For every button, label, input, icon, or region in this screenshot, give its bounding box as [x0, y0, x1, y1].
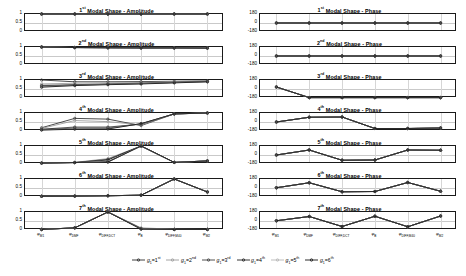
y-tick-label: 0 [233, 218, 257, 223]
legend-marker [132, 257, 145, 263]
y-tick-label: 0.5 [0, 185, 22, 190]
data-point-marker [275, 154, 277, 156]
legend-item: g1=4th [237, 256, 265, 265]
data-point-marker [206, 13, 208, 15]
data-point-marker [275, 121, 277, 123]
phase-axes [259, 178, 456, 196]
series-line [276, 117, 440, 129]
y-tick-label: 180 [233, 77, 257, 82]
series-layer [25, 113, 224, 131]
y-tick-label: 0.5 [0, 53, 22, 58]
x-tick-label: φM2 [203, 231, 210, 239]
series-line [42, 179, 208, 196]
x-axis-tick-labels: φM1φDMFφDIFF,DCTφBφDIFF,M40φM2 [259, 231, 456, 243]
y-tick-label: 0 [233, 185, 257, 190]
x-tick-label: φB [371, 231, 376, 239]
y-tick-label: 0 [0, 128, 22, 133]
series-line [42, 179, 208, 196]
legend-item: g1=3rd [202, 256, 231, 265]
series-line [42, 179, 208, 196]
series-layer [260, 47, 457, 65]
y-tick-label: 0.5 [0, 86, 22, 91]
amplitude-axes [24, 112, 223, 130]
amplitude-axes [24, 178, 223, 196]
series-layer [260, 14, 457, 32]
series-line [42, 212, 208, 229]
figure-root: 1st Modal Shape - Amplitude10.502nd Moda… [0, 0, 466, 276]
data-point-marker [439, 127, 441, 129]
legend-marker [237, 257, 250, 263]
y-tick-label: 0 [233, 119, 257, 124]
legend-item: g1=1st [132, 256, 160, 265]
legend-label: g1=5th [286, 256, 300, 265]
y-tick-label: 180 [233, 209, 257, 214]
series-line [42, 179, 208, 196]
legend-item: g1=2nd [166, 256, 195, 265]
x-tick-label: φDMF [303, 231, 313, 239]
series-line [42, 47, 208, 48]
legend-label: g1=2nd [181, 256, 196, 265]
data-point-marker [439, 22, 441, 24]
data-point-marker [206, 160, 208, 162]
series-line [276, 87, 440, 98]
y-tick-label: 1 [0, 44, 22, 49]
y-tick-label: 1 [0, 11, 22, 16]
y-tick-label: 180 [233, 11, 257, 16]
series-layer [260, 179, 457, 197]
legend-label: g1=3rd [216, 256, 230, 265]
series-line [276, 183, 440, 192]
figure-legend: g1=1stg1=2ndg1=3rdg1=4thg1=5thg1=6th [0, 251, 466, 269]
data-point-marker [275, 22, 277, 24]
data-point-marker [275, 187, 277, 189]
phase-axes [259, 13, 456, 31]
y-tick-label: 180 [233, 110, 257, 115]
y-tick-label: -180 [233, 161, 257, 166]
legend-label: g1=1st [147, 256, 161, 265]
phase-column: 1st Modal Shape - Phase1800-1802nd Modal… [233, 0, 466, 246]
y-tick-label: 0 [233, 152, 257, 157]
y-tick-label: 0 [0, 62, 22, 67]
y-tick-label: 1 [0, 77, 22, 82]
y-tick-label: 180 [233, 44, 257, 49]
x-tick-label: φDIFF,M40 [399, 231, 415, 239]
x-axis-tick-labels: φM1φDMFφDIFF,DCTφBφDIFF,M40φM2 [24, 231, 223, 243]
phase-axes [259, 46, 456, 64]
series-line [276, 87, 440, 98]
y-tick-label: 1 [0, 209, 22, 214]
amplitude-axes [24, 79, 223, 97]
x-tick-label: φDIFF,DCT [99, 231, 116, 239]
x-tick-label: φM1 [272, 231, 279, 239]
data-point-marker [206, 47, 208, 49]
y-tick-label: -180 [233, 95, 257, 100]
x-tick-label: φB [138, 231, 143, 239]
y-tick-label: -180 [233, 62, 257, 67]
series-layer [25, 80, 224, 98]
series-layer [25, 14, 224, 32]
data-point-marker [275, 55, 277, 57]
amplitude-axes [24, 13, 223, 31]
legend-label: g1=4th [251, 256, 265, 265]
y-tick-label: 180 [233, 176, 257, 181]
legend-label: g1=6th [320, 256, 334, 265]
x-tick-label: φM2 [436, 231, 443, 239]
y-tick-label: -180 [233, 194, 257, 199]
phase-axes [259, 79, 456, 97]
series-layer [25, 146, 224, 164]
phase-axes [259, 112, 456, 130]
series-layer [260, 146, 457, 164]
series-line [42, 113, 208, 130]
y-tick-label: 0.5 [0, 218, 22, 223]
series-layer [25, 212, 224, 230]
series-line [42, 146, 208, 163]
series-layer [260, 80, 457, 98]
y-tick-label: -180 [233, 29, 257, 34]
data-point-marker [439, 190, 441, 192]
series-layer [25, 179, 224, 197]
series-line [276, 87, 440, 98]
series-line [276, 87, 440, 98]
y-tick-label: -180 [233, 128, 257, 133]
series-line [42, 179, 208, 196]
data-point-marker [275, 220, 277, 222]
phase-axes [259, 211, 456, 229]
y-tick-label: 0 [233, 86, 257, 91]
